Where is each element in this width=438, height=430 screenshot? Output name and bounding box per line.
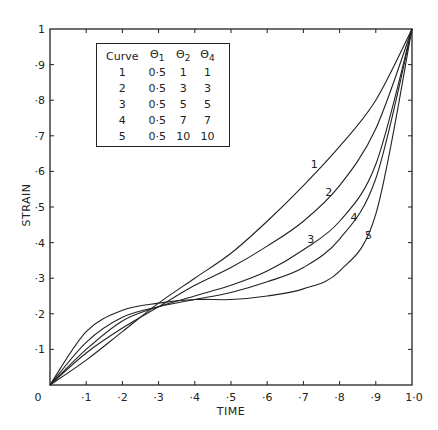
x-tick-label: ·8	[334, 391, 345, 404]
legend-header-theta2: Θ2	[171, 48, 195, 64]
curve-label-3: 3	[307, 233, 314, 246]
x-tick-label: ·3	[153, 391, 164, 404]
legend-row: 2 0·5 3 3	[101, 80, 220, 96]
legend-cell-theta4: 10	[195, 128, 219, 144]
legend-header-curve: Curve	[101, 48, 143, 64]
legend-cell-theta2: 3	[171, 80, 195, 96]
legend-cell-theta1: 0·5	[143, 112, 171, 128]
legend-cell-theta1: 0·5	[143, 96, 171, 112]
legend-row: 1 0·5 1 1	[101, 64, 220, 80]
legend-cell-curve: 1	[101, 64, 143, 80]
curve-label-2: 2	[325, 186, 332, 199]
legend-cell-theta2: 1	[171, 64, 195, 80]
y-tick-label: ·6	[35, 165, 46, 178]
legend-cell-curve: 4	[101, 112, 143, 128]
legend-cell-theta2: 7	[171, 112, 195, 128]
legend-table: Curve Θ1 Θ2 Θ4 1 0·5 1 1 2 0·5 3 3 3 0·5…	[96, 43, 230, 147]
y-tick-label: ·2	[35, 308, 46, 321]
legend-row: 3 0·5 5 5	[101, 96, 220, 112]
legend-row: 4 0·5 7 7	[101, 112, 220, 128]
legend-row: 5 0·5 10 10	[101, 128, 220, 144]
legend-cell-theta2: 5	[171, 96, 195, 112]
x-tick-label: ·2	[117, 391, 128, 404]
legend-cell-curve: 5	[101, 128, 143, 144]
x-tick-label: ·1	[81, 391, 92, 404]
x-tick-label: ·7	[298, 391, 309, 404]
legend-cell-theta1: 0·5	[143, 80, 171, 96]
legend-cell-theta4: 1	[195, 64, 219, 80]
curve-label-5: 5	[365, 229, 372, 242]
legend-header-theta1: Θ1	[143, 48, 171, 64]
y-tick-label: ·7	[35, 130, 46, 143]
curve-label-4: 4	[351, 211, 358, 224]
y-tick-label: ·5	[35, 201, 46, 214]
x-tick-label: ·6	[262, 391, 273, 404]
y-tick-label: 1	[38, 23, 45, 36]
legend-cell-theta4: 5	[195, 96, 219, 112]
legend-cell-curve: 2	[101, 80, 143, 96]
x-axis-title: TIME	[216, 405, 245, 418]
y-tick-label: ·3	[35, 272, 46, 285]
legend-cell-theta4: 3	[195, 80, 219, 96]
y-tick-label: ·1	[35, 343, 46, 356]
legend-cell-theta2: 10	[171, 128, 195, 144]
y-axis-title: STRAIN	[20, 184, 33, 227]
origin-label: 0	[35, 391, 42, 404]
x-tick-label: ·5	[226, 391, 237, 404]
y-tick-label: ·8	[35, 94, 46, 107]
legend-header-theta4: Θ4	[195, 48, 219, 64]
x-tick-label: ·4	[190, 391, 201, 404]
legend-cell-theta1: 0·5	[143, 128, 171, 144]
legend-cell-theta4: 7	[195, 112, 219, 128]
curve-label-1: 1	[311, 158, 318, 171]
y-tick-label: ·4	[35, 237, 46, 250]
legend-cell-curve: 3	[101, 96, 143, 112]
x-tick-label: 1·0	[405, 391, 423, 404]
y-tick-label: ·9	[35, 59, 46, 72]
legend-header-row: Curve Θ1 Θ2 Θ4	[101, 48, 220, 64]
legend-cell-theta1: 0·5	[143, 64, 171, 80]
x-tick-label: ·9	[371, 391, 382, 404]
